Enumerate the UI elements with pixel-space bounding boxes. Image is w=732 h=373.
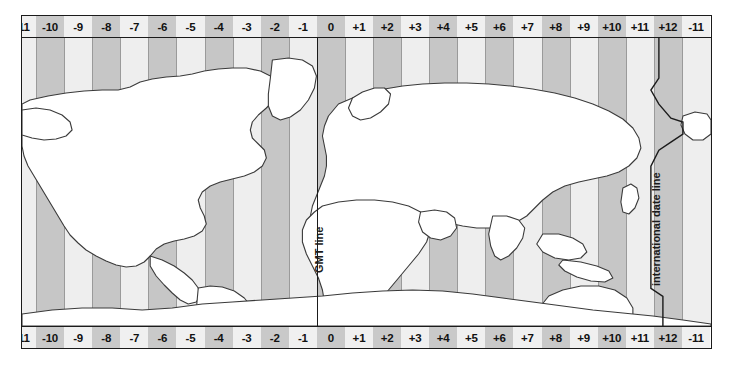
zone-label-minus10: -10 bbox=[36, 16, 64, 37]
world-landmass-svg bbox=[22, 38, 711, 326]
zone-label-minus8: -8 bbox=[92, 16, 120, 37]
zone-label-minus2: -2 bbox=[261, 16, 289, 37]
zone-label-plus1: +1 bbox=[345, 327, 373, 348]
zone-label-0: 0 bbox=[317, 16, 345, 37]
zone-label-plus9: +9 bbox=[570, 16, 598, 37]
zone-label-plus6: +6 bbox=[485, 16, 513, 37]
zone-label-minus11: -11 bbox=[22, 327, 36, 348]
zone-label-plus1: +1 bbox=[345, 16, 373, 37]
zone-label-minus1: -1 bbox=[289, 16, 317, 37]
zone-label-plus11: +11 bbox=[626, 16, 654, 37]
zone-label-plus7: +7 bbox=[513, 327, 541, 348]
zone-label-minus5: -5 bbox=[176, 16, 204, 37]
zone-label-minus6: -6 bbox=[148, 327, 176, 348]
zone-label-minus8: -8 bbox=[92, 327, 120, 348]
zone-label-minus11: -11 bbox=[682, 16, 710, 37]
zone-label-row-top: -11-10-9-8-7-6-5-4-3-2-10+1+2+3+4+5+6+7+… bbox=[22, 16, 711, 38]
zone-label-minus11: -11 bbox=[22, 16, 36, 37]
zone-label-minus9: -9 bbox=[64, 16, 92, 37]
zone-label-plus4: +4 bbox=[429, 327, 457, 348]
gmt-meridian-line bbox=[317, 38, 318, 326]
zone-label-minus7: -7 bbox=[120, 327, 148, 348]
zone-label-minus3: -3 bbox=[233, 327, 261, 348]
zone-label-minus3: -3 bbox=[233, 16, 261, 37]
zone-label-plus2: +2 bbox=[373, 16, 401, 37]
zone-label-plus3: +3 bbox=[401, 327, 429, 348]
zone-label-plus12: +12 bbox=[654, 327, 682, 348]
zone-label-minus5: -5 bbox=[176, 327, 204, 348]
timezone-map-figure: -11-10-9-8-7-6-5-4-3-2-10+1+2+3+4+5+6+7+… bbox=[0, 0, 732, 373]
zone-label-plus2: +2 bbox=[373, 327, 401, 348]
zone-label-0: 0 bbox=[317, 327, 345, 348]
zone-label-plus8: +8 bbox=[542, 327, 570, 348]
zone-label-plus5: +5 bbox=[457, 327, 485, 348]
zone-label-plus6: +6 bbox=[485, 327, 513, 348]
zone-label-plus3: +3 bbox=[401, 16, 429, 37]
zone-label-minus2: -2 bbox=[261, 327, 289, 348]
zone-label-plus8: +8 bbox=[542, 16, 570, 37]
zone-label-row-bottom: -11-10-9-8-7-6-5-4-3-2-10+1+2+3+4+5+6+7+… bbox=[22, 326, 711, 348]
zone-label-minus11: -11 bbox=[682, 327, 710, 348]
zone-label-plus7: +7 bbox=[513, 16, 541, 37]
zone-label-plus5: +5 bbox=[457, 16, 485, 37]
zone-label-plus9: +9 bbox=[570, 327, 598, 348]
zone-label-plus10: +10 bbox=[598, 327, 626, 348]
zone-label-minus4: -4 bbox=[205, 327, 233, 348]
zone-label-minus7: -7 bbox=[120, 16, 148, 37]
zone-label-minus10: -10 bbox=[36, 327, 64, 348]
zone-label-plus4: +4 bbox=[429, 16, 457, 37]
zone-label-plus10: +10 bbox=[598, 16, 626, 37]
zone-label-minus6: -6 bbox=[148, 16, 176, 37]
landmass-layer bbox=[22, 38, 711, 326]
zone-label-minus4: -4 bbox=[205, 16, 233, 37]
map-plate: -11-10-9-8-7-6-5-4-3-2-10+1+2+3+4+5+6+7+… bbox=[21, 15, 712, 349]
gmt-line-label: GMT line bbox=[313, 227, 325, 273]
zone-label-plus12: +12 bbox=[654, 16, 682, 37]
zone-label-plus11: +11 bbox=[626, 327, 654, 348]
zone-label-minus1: -1 bbox=[289, 327, 317, 348]
map-viewport: GMT line international date line bbox=[22, 38, 711, 326]
international-date-line-label: international date line bbox=[650, 172, 662, 286]
zone-label-minus9: -9 bbox=[64, 327, 92, 348]
